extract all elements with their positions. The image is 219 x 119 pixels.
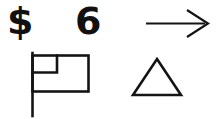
digit-six-glyph: 6 (75, 2, 101, 40)
drawing-canvas: $ 6 (0, 0, 219, 119)
triangle-outline (133, 59, 181, 95)
flag-svg (26, 50, 96, 119)
triangle-icon (126, 53, 188, 107)
right-arrow-icon (142, 6, 216, 46)
flag-inner-corner-rectangle (33, 56, 58, 73)
flag-icon (26, 50, 96, 119)
right-arrow-svg (142, 6, 216, 42)
dollar-sign-glyph: $ (7, 2, 33, 40)
triangle-svg (126, 53, 188, 103)
